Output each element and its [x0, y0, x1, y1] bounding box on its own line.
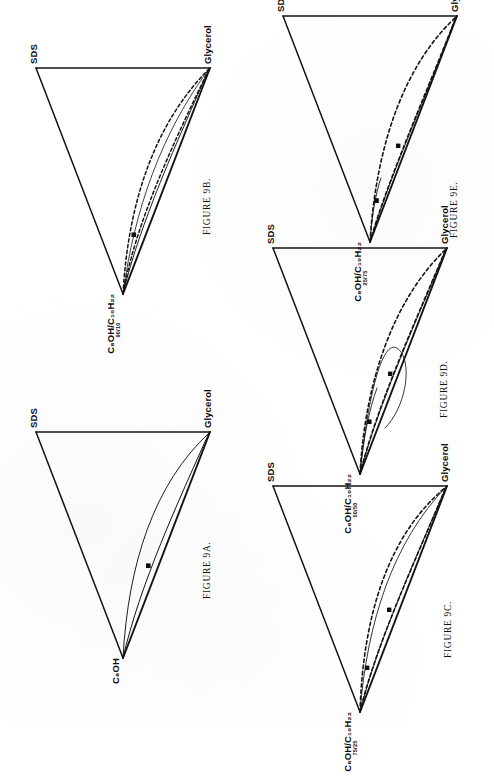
- caption-fig-9b: FIGURE 9B.: [202, 178, 212, 235]
- diagram-fig-9c: SDS Glycerol C₈OH/C₁₀H₂₂ 75/25: [265, 468, 455, 718]
- ternary-plot-9e: [275, 0, 465, 248]
- vertex-label-glycerol-9c: Glycerol: [440, 443, 450, 482]
- vertex-label-sds-9e: SDS: [276, 0, 286, 12]
- vertex-label-glycerol-9b: Glycerol: [203, 25, 213, 64]
- vertex-label-glycerol-9a: Glycerol: [203, 389, 213, 428]
- caption-fig-9d: FIGURE 9D.: [439, 360, 449, 418]
- vertex-label-sds-9c: SDS: [266, 462, 276, 482]
- data-marker: [367, 419, 372, 424]
- ternary-plot-9a: [28, 414, 218, 664]
- data-marker: [396, 144, 400, 148]
- caption-fig-9c: FIGURE 9C.: [443, 601, 453, 658]
- vertex-label-glycerol-9e: Glycerol: [450, 0, 460, 12]
- vertex-label-glycerol-9d: Glycerol: [440, 205, 450, 244]
- vertex-label-sds-9a: SDS: [29, 408, 39, 428]
- triangle-edge-apex-sds: [36, 432, 123, 658]
- panel-fig-9a: SDS Glycerol C₈OH FIGURE 9A.: [0, 364, 247, 728]
- vertex-label-apex-9a: C₈OH: [111, 658, 121, 730]
- panel-fig-9c: SDS Glycerol C₈OH/C₁₀H₂₂ 75/25 FIGURE 9C…: [247, 490, 494, 728]
- solid-boundary-upper-9d: [360, 388, 377, 474]
- triangle-edge-glycerol-apex: [123, 68, 210, 294]
- vertex-label-sds-9d: SDS: [266, 224, 276, 244]
- ternary-plot-9b: [28, 50, 218, 300]
- data-marker: [365, 666, 369, 670]
- triangle-edge-glycerol-apex: [123, 432, 210, 658]
- data-marker: [146, 563, 151, 568]
- data-marker: [387, 608, 391, 612]
- apex-ratio-9b: 90/10: [116, 294, 122, 366]
- diagram-fig-9e: SDS Glycerol C₈OH/C₁₀H₂₂ 25/75: [275, 0, 465, 248]
- ternary-plot-9c: [265, 468, 455, 718]
- triangle-edge-apex-sds: [36, 68, 123, 294]
- triangle-edge-apex-sds: [283, 16, 370, 242]
- diagram-fig-9d: SDS Glycerol C₈OH/C₁₀H₂₂ 50/50: [265, 230, 455, 480]
- vertex-label-apex-9c: C₈OH/C₁₀H₂₂ 75/25: [343, 712, 359, 776]
- vertex-label-sds-9b: SDS: [29, 44, 39, 64]
- triangle-edge-glycerol-apex: [360, 248, 447, 474]
- data-marker: [388, 372, 392, 376]
- data-marker: [132, 232, 137, 237]
- caption-fig-9a: FIGURE 9A.: [202, 541, 212, 599]
- panel-fig-9b: SDS Glycerol C₈OH/C₁₀H₂₂ 90/10 FIGURE 9B…: [0, 0, 247, 364]
- triangle-edge-apex-sds: [273, 486, 360, 712]
- apex-ratio-9c: 75/25: [353, 712, 359, 776]
- data-marker: [374, 198, 379, 203]
- triangle-edge-apex-sds: [273, 248, 360, 474]
- ternary-plot-9d: [265, 230, 455, 480]
- vertex-label-apex-9b: C₈OH/C₁₀H₂₂ 90/10: [106, 294, 122, 366]
- diagram-fig-9b: SDS Glycerol C₈OH/C₁₀H₂₂ 90/10: [28, 50, 218, 300]
- panel-fig-9d: SDS Glycerol C₈OH/C₁₀H₂₂ 50/50 FIGURE 9D…: [247, 290, 494, 490]
- triangle-edge-glycerol-apex: [360, 486, 447, 712]
- diagram-fig-9a: SDS Glycerol C₈OH: [28, 414, 218, 664]
